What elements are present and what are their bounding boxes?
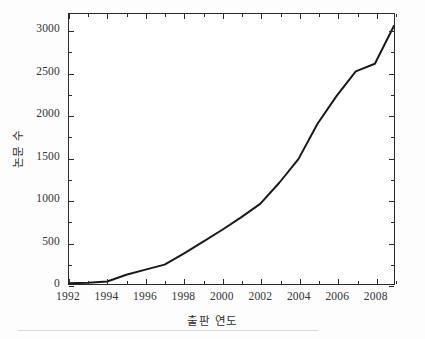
x-axis-minor-tick [281,281,282,284]
y-axis-tick-right [389,201,394,202]
x-axis-minor-tick-top [396,14,397,17]
x-axis-title-text: 출판 연도 [187,314,237,328]
y-axis-tick-right [389,31,394,32]
x-axis-minor-tick [319,281,320,284]
x-axis-tick [146,279,147,284]
x-axis-minor-tick-top [281,14,282,17]
series-polyline [69,26,394,283]
y-axis-minor-tick [69,52,72,53]
y-axis-minor-tick [69,265,72,266]
x-axis-minor-tick-top [319,14,320,17]
x-axis-minor-tick [88,281,89,284]
y-axis-tick [69,31,74,32]
y-axis-tick-label: 1000 [0,192,60,204]
x-axis-minor-tick [242,281,243,284]
y-axis-tick-right [389,74,394,75]
x-axis-tick-top [69,14,70,19]
x-axis-tick-label: 2008 [353,290,399,302]
y-axis-tick-label: 0 [0,277,60,289]
y-axis-tick-label: 3000 [0,22,60,34]
y-axis-minor-tick-right [391,52,394,53]
y-axis-tick [69,244,74,245]
y-axis-tick-right [389,286,394,287]
x-axis-tick-top [223,14,224,19]
y-axis-tick-label: 1500 [0,150,60,162]
x-axis-minor-tick-top [127,14,128,17]
x-axis-tick-top [377,14,378,19]
y-axis-tick-right [389,116,394,117]
y-axis-minor-tick [69,137,72,138]
x-axis-minor-tick [358,281,359,284]
scan-artifact-rule [18,330,318,331]
x-axis-tick-top [338,14,339,19]
x-axis-minor-tick-top [165,14,166,17]
y-axis-tick-right [389,244,394,245]
x-axis-tick-top [300,14,301,19]
y-axis-minor-tick [69,222,72,223]
data-line-series [69,14,394,284]
x-axis-minor-tick-top [358,14,359,17]
x-axis-tick-top [184,14,185,19]
y-axis-minor-tick-right [391,222,394,223]
x-axis-tick-top [107,14,108,19]
y-axis-tick [69,286,74,287]
y-axis-tick [69,116,74,117]
y-axis-minor-tick [69,180,72,181]
x-axis-minor-tick-top [88,14,89,17]
x-axis-tick [223,279,224,284]
x-axis-tick-top [146,14,147,19]
y-axis-tick-label: 500 [0,235,60,247]
y-axis-tick [69,74,74,75]
chart-figure: 논문 수 출판 연도 05001000150020002500300019921… [0,0,425,339]
y-axis-tick [69,159,74,160]
y-axis-minor-tick-right [391,137,394,138]
y-axis-tick-right [389,159,394,160]
x-axis-minor-tick [396,281,397,284]
x-axis-tick [107,279,108,284]
x-axis-minor-tick-top [204,14,205,17]
y-axis-minor-tick [69,95,72,96]
x-axis-tick [338,279,339,284]
plot-area [68,13,395,285]
x-axis-title: 출판 연도 [0,312,425,328]
y-axis-minor-tick-right [391,95,394,96]
y-axis-minor-tick-right [391,180,394,181]
x-axis-minor-tick [127,281,128,284]
x-axis-minor-tick-top [242,14,243,17]
x-axis-tick [300,279,301,284]
x-axis-tick [377,279,378,284]
y-axis-tick-label: 2500 [0,65,60,77]
y-axis-tick [69,201,74,202]
x-axis-minor-tick [165,281,166,284]
y-axis-minor-tick-right [391,265,394,266]
x-axis-tick [184,279,185,284]
x-axis-tick-top [261,14,262,19]
x-axis-tick [261,279,262,284]
x-axis-minor-tick [204,281,205,284]
x-axis-tick [69,279,70,284]
y-axis-tick-label: 2000 [0,107,60,119]
